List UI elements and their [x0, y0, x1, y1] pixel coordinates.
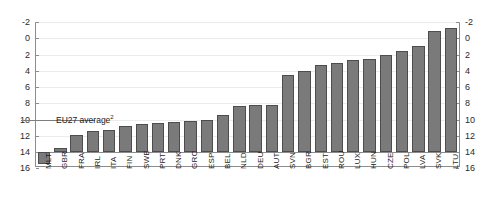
x-axis-label-text: SWE: [143, 150, 151, 169]
x-axis-label-text: SVK: [435, 152, 443, 169]
bar[interactable]: [233, 106, 245, 152]
x-axis-label-text: CZE: [387, 152, 395, 169]
y-tick-label: 6: [465, 83, 487, 92]
bar[interactable]: [119, 126, 131, 152]
y-tick-label: -2: [465, 18, 487, 27]
y-tick-label: 10: [465, 116, 487, 125]
bar[interactable]: [136, 124, 148, 152]
y-tick-label: 14: [10, 148, 30, 157]
x-axis-label-irl: IRL: [85, 168, 101, 208]
clipped-caption: [150, 0, 350, 3]
y-tick-label: 0: [10, 34, 30, 43]
x-axis-label-pol: POL: [394, 168, 410, 208]
bar[interactable]: [103, 130, 115, 152]
x-axis-label-text: AUT: [273, 152, 281, 169]
y-tick-label: 16: [465, 164, 487, 173]
bar[interactable]: [428, 31, 440, 152]
y-tick-label: 8: [10, 99, 30, 108]
bar[interactable]: [184, 121, 196, 152]
x-axis-label-gbr: GBR: [52, 168, 68, 208]
bar[interactable]: [152, 123, 164, 152]
x-axis-label-lux: LUX: [345, 168, 361, 208]
x-axis-label-swe: SWE: [134, 168, 150, 208]
y-tick-label: 6: [10, 83, 30, 92]
x-axis-label-svk: SVK: [426, 168, 442, 208]
x-axis-label-nld: NLD: [231, 168, 247, 208]
x-axis-label-text: EST: [322, 153, 330, 169]
bar[interactable]: [87, 131, 99, 152]
x-axis-label-text: ROU: [338, 151, 346, 169]
x-axis-label-rou: ROU: [329, 168, 345, 208]
eu27-average-text: EU27 average: [56, 114, 110, 124]
x-axis-label-mlt: MLT: [36, 168, 52, 208]
x-axis-label-text: LVA: [419, 154, 427, 169]
bar[interactable]: [249, 105, 261, 152]
x-axis-label-svn: SVN: [280, 168, 296, 208]
x-axis-label-text: LTU: [452, 154, 460, 169]
y-tick-label: 12: [465, 132, 487, 141]
x-axis-label-grc: GRC: [182, 168, 198, 208]
x-axis-label-ita: ITA: [101, 168, 117, 208]
bar[interactable]: [201, 120, 213, 153]
x-axis-label-text: NLD: [240, 152, 248, 169]
y-tick-label: 0: [465, 34, 487, 43]
x-axis-label-deu: DEU: [248, 168, 264, 208]
x-axis-label-lva: LVA: [410, 168, 426, 208]
x-axis-label-est: EST: [313, 168, 329, 208]
x-axis-label-fra: FRA: [69, 168, 85, 208]
eu27-average-label: EU27 average2: [56, 112, 114, 125]
x-axis-label-text: ESP: [208, 152, 216, 169]
x-axis-label-fin: FIN: [117, 168, 133, 208]
x-axis-label-dnk: DNK: [166, 168, 182, 208]
y-tick-label: 4: [465, 67, 487, 76]
x-axis-label-text: FRA: [78, 152, 86, 169]
x-axis-label-hun: HUN: [361, 168, 377, 208]
bar[interactable]: [168, 122, 180, 152]
x-axis-label-text: GRC: [191, 151, 199, 169]
x-axis-label-text: BGR: [305, 151, 313, 169]
x-axis-label-text: DNK: [175, 152, 183, 170]
eu27-average-footnote: 2: [110, 114, 113, 120]
y-tick-label: 8: [465, 99, 487, 108]
y-tick-label: 2: [465, 51, 487, 60]
x-axis-label-ltu: LTU: [443, 168, 459, 208]
y-tick-label: 14: [465, 148, 487, 157]
x-axis-label-aut: AUT: [264, 168, 280, 208]
x-axis-label-esp: ESP: [199, 168, 215, 208]
x-axis-label-text: DEU: [257, 152, 265, 170]
y-tick-label: -2: [10, 18, 30, 27]
y-tick-label: 2: [10, 51, 30, 60]
x-axis-label-text: FIN: [126, 156, 134, 170]
x-axis-label-text: MLT: [45, 153, 53, 169]
bar[interactable]: [282, 75, 294, 152]
x-axis-label-bel: BEL: [215, 168, 231, 208]
bar[interactable]: [380, 55, 392, 152]
x-axis-category-labels: MLTGBRFRAIRLITAFINSWEPRTDNKGRCESPBELNLDD…: [36, 168, 459, 209]
x-axis-label-bgr: BGR: [296, 168, 312, 208]
x-axis-label-text: GBR: [61, 151, 69, 169]
bar[interactable]: [396, 51, 408, 152]
x-axis-label-cze: CZE: [378, 168, 394, 208]
x-axis-label-text: BEL: [224, 153, 232, 169]
bar-series: [36, 22, 459, 167]
bar[interactable]: [331, 63, 343, 152]
bar[interactable]: [70, 135, 82, 152]
bar[interactable]: [347, 60, 359, 152]
x-axis-label-text: PRT: [159, 153, 167, 169]
bar[interactable]: [217, 115, 229, 152]
bar[interactable]: [363, 59, 375, 152]
x-axis-label-text: POL: [403, 152, 411, 169]
bar[interactable]: [298, 71, 310, 152]
x-axis-label-text: SVN: [289, 152, 297, 169]
y-tick-label: 16: [10, 164, 30, 173]
bar[interactable]: [445, 28, 457, 152]
chart-figure: 16161414121210108866442200-2-2 EU27 aver…: [0, 0, 493, 209]
x-axis-label-text: LUX: [354, 153, 362, 169]
bar[interactable]: [412, 46, 424, 152]
x-axis-label-text: HUN: [370, 151, 378, 169]
y-tick-label: 12: [10, 132, 30, 141]
bar[interactable]: [315, 65, 327, 152]
y-tick-label: 4: [10, 67, 30, 76]
bar[interactable]: [266, 105, 278, 152]
x-axis-label-prt: PRT: [150, 168, 166, 208]
